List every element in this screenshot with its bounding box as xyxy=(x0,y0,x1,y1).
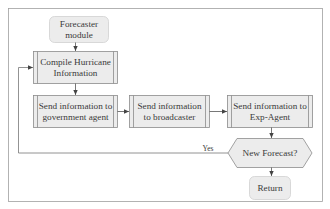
send-exp-node-label: Send information to Exp-Agent xyxy=(231,95,309,128)
compile-node-label: Compile Hurricane Information xyxy=(37,51,114,84)
end-node-label: Return xyxy=(249,176,291,200)
send-broadcaster-node-label: Send information to broadcaster xyxy=(133,95,206,128)
decision-node-label: New Forecast? xyxy=(228,138,312,168)
start-node-label: Forecaster module xyxy=(49,16,109,43)
yes-edge-label: Yes xyxy=(198,143,218,153)
send-gov-node-label: Send information to government agent xyxy=(37,95,114,128)
